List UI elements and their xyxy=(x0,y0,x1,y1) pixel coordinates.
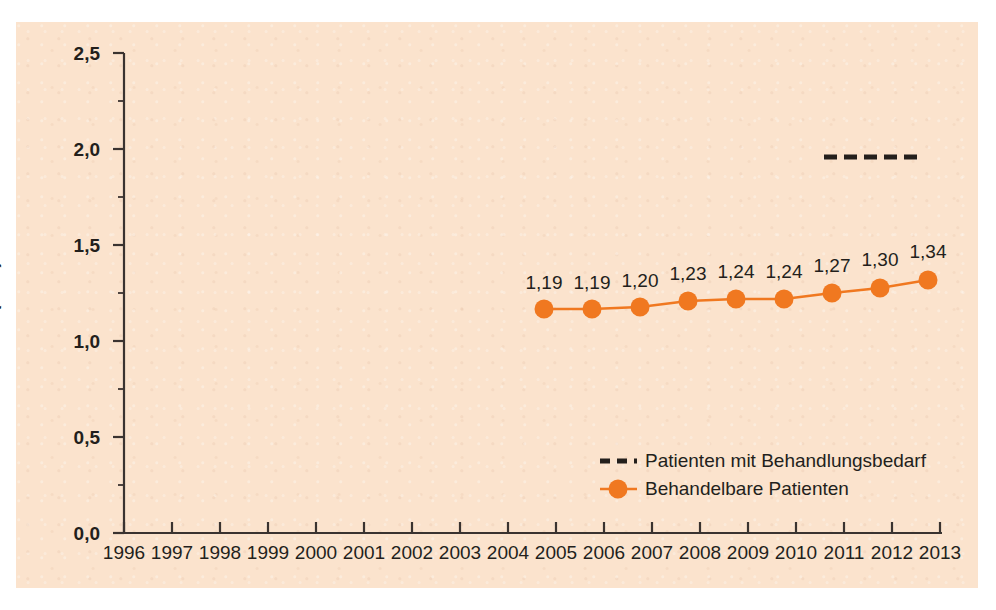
y-axis-title: Patienten (Mio.) xyxy=(0,232,2,432)
legend-label-behandlungsbedarf: Patienten mit Behandlungsbedarf xyxy=(645,450,926,472)
x-tick-label-2003: 2003 xyxy=(433,542,487,564)
x-tick-label-2002: 2002 xyxy=(385,542,439,564)
data-label-2013: 1,34 xyxy=(900,241,956,263)
x-tick-label-2013: 2013 xyxy=(913,542,967,564)
x-tick-label-2011: 2011 xyxy=(817,542,871,564)
y-tick-label-0: 0,0 xyxy=(48,523,100,545)
y-tick-label-3: 1,5 xyxy=(48,235,100,257)
y-tick-label-2: 1,0 xyxy=(48,331,100,353)
legend-swatch-behandelbare-patienten xyxy=(600,480,637,499)
chart-figure: Patienten (Mio.) 0,0 0,5 1,0 1,5 2,0 2,5… xyxy=(0,0,996,610)
x-tick-label-1997: 1997 xyxy=(145,542,199,564)
x-tick-label-2009: 2009 xyxy=(721,542,775,564)
x-tick-label-2000: 2000 xyxy=(289,542,343,564)
x-tick-label-2012: 2012 xyxy=(865,542,919,564)
x-tick-label-2010: 2010 xyxy=(769,542,823,564)
x-tick-label-2007: 2007 xyxy=(625,542,679,564)
x-tick-label-1999: 1999 xyxy=(241,542,295,564)
y-tick-label-1: 0,5 xyxy=(48,427,100,449)
x-tick-label-1998: 1998 xyxy=(193,542,247,564)
x-tick-label-2004: 2004 xyxy=(481,542,535,564)
x-tick-label-2008: 2008 xyxy=(673,542,727,564)
x-tick-label-2005: 2005 xyxy=(529,542,583,564)
legend-label-behandelbare-patienten: Behandelbare Patienten xyxy=(645,478,849,500)
y-tick-label-4: 2,0 xyxy=(48,139,100,161)
x-tick-label-2001: 2001 xyxy=(337,542,391,564)
x-axis-ticks xyxy=(124,522,940,533)
chart-plot-svg xyxy=(0,0,996,610)
y-tick-label-5: 2,5 xyxy=(48,43,100,65)
x-tick-label-2006: 2006 xyxy=(577,542,631,564)
x-tick-label-1996: 1996 xyxy=(97,542,151,564)
